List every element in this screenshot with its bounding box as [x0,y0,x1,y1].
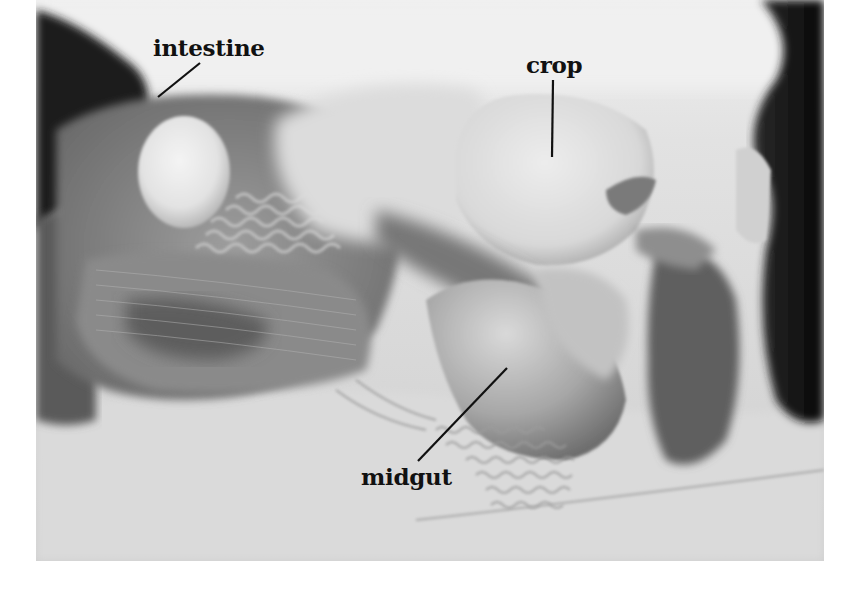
dissection-figure: intestine crop midgut [0,0,860,601]
intestine-label: intestine [153,36,265,59]
crop-label: crop [526,53,582,76]
midgut-label: midgut [361,465,452,488]
